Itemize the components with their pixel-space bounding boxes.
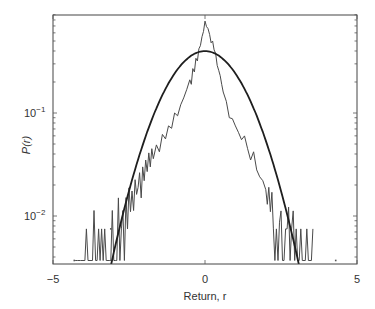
stray-point (73, 260, 75, 262)
stray-point (335, 260, 337, 262)
x-tick-label-5: 5 (354, 273, 360, 285)
x-tick-label-0: 0 (202, 273, 208, 285)
chart-background (0, 0, 375, 309)
chart: 10−1 10−2 −5 0 5 Return, r P(r) (0, 0, 375, 309)
stray-point (110, 228, 112, 230)
y-axis-label: P(r) (20, 136, 32, 155)
x-axis-label: Return, r (184, 290, 227, 302)
x-tick-label-neg5: −5 (47, 273, 60, 285)
